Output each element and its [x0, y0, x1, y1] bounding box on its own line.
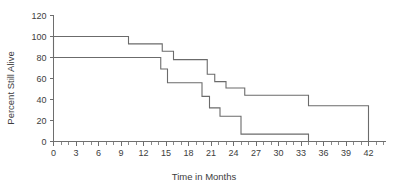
x-tick-label: 18 — [183, 148, 193, 158]
y-tick-label: 0 — [41, 137, 46, 147]
kaplan-meier-chart: 020406080100120 036912151821242730333639… — [0, 0, 405, 186]
x-tick-label: 6 — [96, 148, 101, 158]
x-tick-label: 3 — [73, 148, 78, 158]
x-tick-label: 9 — [118, 148, 123, 158]
y-tick-label: 120 — [31, 11, 46, 21]
y-tick-label: 40 — [36, 95, 46, 105]
lower-survival-curve — [54, 58, 309, 142]
y-axis: 020406080100120 — [31, 11, 53, 147]
x-axis-title: Time in Months — [172, 171, 237, 182]
chart-canvas: 020406080100120 036912151821242730333639… — [0, 0, 405, 186]
survival-curves — [54, 37, 369, 142]
x-tick-label: 33 — [296, 148, 306, 158]
x-tick-label: 39 — [341, 148, 351, 158]
x-tick-label: 36 — [318, 148, 328, 158]
x-axis: 03691215182124273033363942 — [51, 142, 386, 158]
upper-survival-curve — [54, 37, 369, 142]
x-tick-label: 30 — [273, 148, 283, 158]
x-tick-label: 0 — [51, 148, 56, 158]
y-tick-label: 80 — [36, 53, 46, 63]
x-tick-label: 15 — [161, 148, 171, 158]
x-tick-label: 27 — [251, 148, 261, 158]
x-tick-label: 42 — [363, 148, 373, 158]
y-tick-label: 100 — [31, 32, 46, 42]
y-tick-label: 60 — [36, 74, 46, 84]
x-tick-label: 24 — [228, 148, 238, 158]
y-tick-label: 20 — [36, 116, 46, 126]
y-axis-title: Percent Still Alive — [5, 51, 16, 124]
x-tick-label: 12 — [138, 148, 148, 158]
x-tick-label: 21 — [206, 148, 216, 158]
